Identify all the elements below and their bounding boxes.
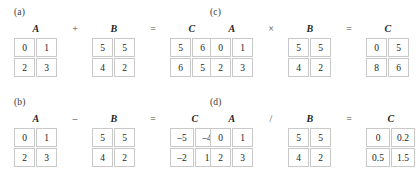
operator-symbol: – <box>58 112 92 126</box>
matrix-row: 0 0.2 <box>366 128 416 148</box>
matrix-grid-A: 0 1 2 3 <box>210 38 254 78</box>
matrix-cell: 5 <box>170 38 191 57</box>
matrix-grid-A: 0 1 2 3 <box>210 128 254 168</box>
matrix-grid-B: 5 5 4 2 <box>92 128 136 168</box>
matrix-cell: 5 <box>114 38 135 57</box>
matrix-cell: 5 <box>310 128 331 147</box>
matrix-row: 0.5 1.5 <box>366 148 416 168</box>
matrix-cell: 4 <box>288 58 309 77</box>
matrix-cell: 3 <box>232 58 253 77</box>
matrix-label-A: A <box>229 112 236 126</box>
equals-symbol: = <box>136 22 170 36</box>
matrix-row: 2 3 <box>210 58 254 78</box>
matrix-cell: 5 <box>92 128 113 147</box>
panel-a-equation: A 0 1 2 3 + B 5 <box>14 22 214 78</box>
panel-b-matrix-A: A 0 1 2 3 <box>14 112 58 168</box>
matrix-cell: 1 <box>232 38 253 57</box>
panel-d-tag: (d) <box>210 97 222 107</box>
matrix-cell: 2 <box>310 148 331 167</box>
panel-c: (c) A 0 1 2 3 × B <box>196 0 391 90</box>
matrix-row: 2 3 <box>14 58 58 78</box>
matrix-cell: 4 <box>92 148 113 167</box>
panel-a-tag: (a) <box>14 7 25 17</box>
panel-d-matrix-C: C 0 0.2 0.5 1.5 <box>366 112 416 168</box>
panel-c-matrix-B: B 5 5 4 2 <box>288 22 332 78</box>
panel-d-matrix-B: B 5 5 4 2 <box>288 112 332 168</box>
panel-a-matrix-B: B 5 5 4 2 <box>92 22 136 78</box>
panel-c-equation: A 0 1 2 3 × B 5 <box>210 22 410 78</box>
matrix-grid-B: 5 5 4 2 <box>92 38 136 78</box>
matrix-row: 8 6 <box>366 58 410 78</box>
matrix-cell: 6 <box>388 58 409 77</box>
matrix-cell: 0 <box>14 128 35 147</box>
matrix-cell: 5 <box>114 128 135 147</box>
matrix-row: 0 1 <box>210 38 254 58</box>
panel-a-matrix-A: A 0 1 2 3 <box>14 22 58 78</box>
operator-symbol: × <box>254 22 288 36</box>
matrix-row: 0 5 <box>366 38 410 58</box>
matrix-grid-C: 0 0.2 0.5 1.5 <box>366 128 416 168</box>
matrix-label-C: C <box>388 112 395 126</box>
matrix-cell: 1 <box>232 128 253 147</box>
matrix-cell: 2 <box>114 58 135 77</box>
matrix-cell: 3 <box>232 148 253 167</box>
matrix-row: 2 3 <box>210 148 254 168</box>
matrix-cell: 2 <box>210 58 231 77</box>
matrix-cell: 2 <box>210 148 231 167</box>
matrix-row: 0 1 <box>14 38 58 58</box>
matrix-cell: 0 <box>14 38 35 57</box>
matrix-row: 4 2 <box>92 58 136 78</box>
matrix-row: 4 2 <box>92 148 136 168</box>
equals-symbol: = <box>136 112 170 126</box>
panel-b: (b) A 0 1 2 3 – B <box>0 90 195 180</box>
operator-symbol: + <box>58 22 92 36</box>
matrix-cell: 5 <box>288 38 309 57</box>
panel-c-tag: (c) <box>210 7 221 17</box>
matrix-row: 2 3 <box>14 148 58 168</box>
matrix-cell: 2 <box>310 58 331 77</box>
matrix-cell: 2 <box>14 58 35 77</box>
matrix-row: 4 2 <box>288 58 332 78</box>
matrix-grid-A: 0 1 2 3 <box>14 38 58 78</box>
panel-b-matrix-B: B 5 5 4 2 <box>92 112 136 168</box>
matrix-cell: 3 <box>36 148 57 167</box>
matrix-row: 0 1 <box>14 128 58 148</box>
matrix-cell: 8 <box>366 58 387 77</box>
matrix-row: 5 5 <box>92 38 136 58</box>
matrix-cell: –2 <box>170 148 194 167</box>
matrix-label-C: C <box>385 22 392 36</box>
panel-b-equation: A 0 1 2 3 – B 5 <box>14 112 220 168</box>
equals-symbol: = <box>332 22 366 36</box>
matrix-cell: 1 <box>36 38 57 57</box>
matrix-row: 5 5 <box>288 38 332 58</box>
matrix-grid-C: 0 5 8 6 <box>366 38 410 78</box>
matrix-label-B: B <box>307 22 314 36</box>
matrix-row: 4 2 <box>288 148 332 168</box>
matrix-grid-A: 0 1 2 3 <box>14 128 58 168</box>
matrix-cell: 2 <box>14 148 35 167</box>
matrix-label-A: A <box>33 112 40 126</box>
matrix-label-A: A <box>229 22 236 36</box>
matrix-cell: 4 <box>92 58 113 77</box>
matrix-cell: –5 <box>170 128 194 147</box>
matrix-grid-B: 5 5 4 2 <box>288 128 332 168</box>
matrix-cell: 0 <box>366 38 387 57</box>
matrix-cell: 3 <box>36 58 57 77</box>
panel-a: (a) A 0 1 2 3 + B <box>0 0 195 90</box>
matrix-cell: 0.5 <box>366 148 390 167</box>
panel-d-equation: A 0 1 2 3 / B 5 <box>210 112 416 168</box>
matrix-cell: 1 <box>36 128 57 147</box>
panel-c-matrix-C: C 0 5 8 6 <box>366 22 410 78</box>
matrix-cell: 0 <box>210 128 231 147</box>
matrix-row: 0 1 <box>210 128 254 148</box>
matrix-cell: 1.5 <box>391 148 415 167</box>
matrix-cell: 5 <box>388 38 409 57</box>
matrix-label-B: B <box>111 22 118 36</box>
matrix-label-B: B <box>307 112 314 126</box>
operator-symbol: / <box>254 112 288 126</box>
matrix-cell: 5 <box>288 128 309 147</box>
matrix-cell: 2 <box>114 148 135 167</box>
matrix-cell: 0.2 <box>391 128 415 147</box>
matrix-cell: 4 <box>288 148 309 167</box>
